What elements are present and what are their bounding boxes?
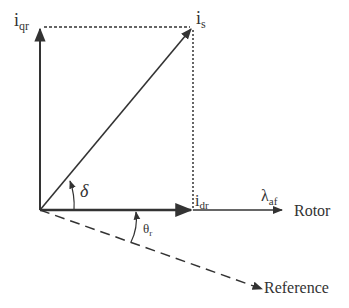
idr-label: idr	[195, 192, 209, 211]
rotor-label: Rotor	[294, 202, 331, 219]
reference-axis	[40, 210, 262, 289]
delta-label: δ	[80, 181, 89, 201]
theta-r-angle-arc	[131, 212, 136, 242]
phasor-diagram: iqr is idr λaf δ θr Rotor Reference	[0, 0, 349, 308]
is-label: is	[196, 8, 206, 31]
lambda-af-label: λaf	[261, 187, 278, 207]
delta-angle-arc	[70, 181, 74, 210]
reference-label: Reference	[264, 279, 329, 296]
theta-r-label: θr	[143, 221, 152, 238]
is-vector	[40, 29, 191, 210]
iqr-label: iqr	[14, 10, 29, 33]
